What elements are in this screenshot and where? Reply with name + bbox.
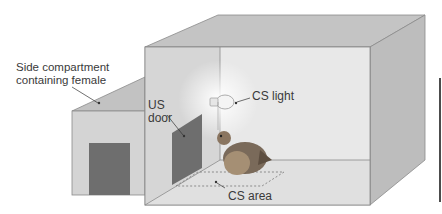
us-door-label: US door [148, 99, 172, 125]
side-compartment-label-line1: Side compartment [16, 61, 109, 74]
side-compartment-label: Side compartment containing female [16, 61, 109, 87]
cs-light-label: CS light [252, 90, 294, 103]
side-compartment-door [89, 143, 130, 195]
main-chamber [145, 15, 425, 205]
apparatus-diagram [0, 0, 442, 214]
side-compartment-pointer [72, 87, 98, 103]
side-compartment-label-line2: containing female [16, 74, 109, 87]
chamber-right-face [370, 15, 425, 205]
cs-area-label: CS area [228, 190, 272, 203]
us-door-label-line2: door [148, 112, 172, 125]
side-compartment [72, 77, 145, 195]
